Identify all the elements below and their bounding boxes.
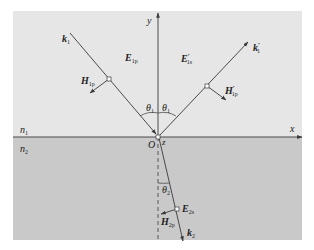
z-axis-label: z bbox=[162, 138, 166, 147]
transmitted-k-label: k2 bbox=[187, 228, 195, 239]
medium-2-subscript: 2 bbox=[25, 149, 28, 155]
incident-H-label: H1p bbox=[81, 76, 95, 87]
reflected-H-subscript: 1p bbox=[232, 91, 238, 97]
transmitted-k-subscript: 2 bbox=[192, 233, 195, 239]
y-axis-label: y bbox=[147, 16, 151, 26]
incident-k-label: k1 bbox=[62, 34, 70, 45]
transmission-angle-label: θ2 bbox=[162, 185, 170, 196]
reflected-E-label: E′1s bbox=[181, 53, 192, 65]
incident-field-point bbox=[107, 77, 111, 81]
medium-1-label: n1 bbox=[20, 125, 28, 136]
transmitted-H-symbol: H bbox=[161, 216, 169, 227]
reflected-angle-subscript: 1 bbox=[167, 108, 170, 114]
reflected-k-subscript: 1 bbox=[257, 48, 260, 54]
reflected-field-point bbox=[205, 84, 209, 88]
diagram-canvas bbox=[0, 0, 314, 250]
transmitted-E-symbol: E bbox=[182, 203, 189, 214]
incident-k-subscript: 1 bbox=[67, 39, 70, 45]
transmitted-E-subscript: 2s bbox=[189, 209, 194, 215]
reflected-k-label: k′1 bbox=[253, 42, 260, 54]
transmission-angle-subscript: 2 bbox=[167, 190, 170, 196]
incident-E-subscript: 1p bbox=[132, 58, 138, 64]
medium-1-subscript: 1 bbox=[25, 130, 28, 136]
reflected-angle-label: θ1 bbox=[162, 103, 170, 114]
lower-medium-region bbox=[13, 137, 302, 240]
reflected-H-label: H′1p bbox=[225, 85, 238, 97]
incident-H-subscript: 1p bbox=[89, 81, 95, 87]
reflected-E-subscript: 1s bbox=[187, 59, 192, 65]
origin-point bbox=[156, 135, 160, 139]
incident-angle-label: θ1 bbox=[146, 103, 154, 114]
origin-label: O bbox=[148, 140, 155, 150]
transmitted-field-point bbox=[175, 207, 179, 211]
upper-medium-region bbox=[13, 11, 302, 137]
incident-H-symbol: H bbox=[81, 75, 89, 86]
medium-2-label: n2 bbox=[20, 144, 28, 155]
transmitted-H-subscript: 2p bbox=[169, 222, 175, 228]
incident-angle-subscript: 1 bbox=[151, 108, 154, 114]
incident-E-label: E1p bbox=[125, 53, 138, 64]
transmitted-H-label: H2p bbox=[161, 217, 175, 228]
transmitted-E-label: E2s bbox=[182, 204, 194, 215]
x-axis-label: x bbox=[290, 124, 294, 134]
incident-E-symbol: E bbox=[125, 52, 132, 63]
